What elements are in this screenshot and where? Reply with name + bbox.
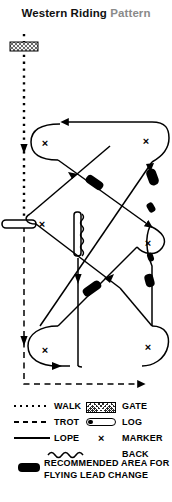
marker-6: ×: [145, 341, 151, 353]
legend-item-trot: TROT: [12, 414, 90, 430]
legend-label-log: LOG: [122, 414, 142, 430]
legend-label-gate: GATE: [122, 398, 147, 414]
legend-gaits: WALK TROT LOPE: [12, 398, 90, 446]
legend-label-trot: TROT: [54, 414, 79, 430]
legend-item-gate: GATE: [86, 398, 170, 414]
legend-item-log: LOG: [86, 414, 170, 430]
lead-change-bar-icon: [0, 458, 44, 484]
legend-item-lope: LOPE: [12, 430, 90, 446]
marker-3: ×: [39, 218, 45, 230]
gate-icon: [86, 398, 122, 414]
western-riding-pattern-page: Western Riding Pattern: [0, 0, 172, 502]
page-title-sub: Pattern: [110, 7, 150, 19]
legend-item-walk: WALK: [12, 398, 90, 414]
marker-2: ×: [143, 135, 149, 147]
marker-icon: ×: [86, 430, 122, 446]
lead-change-bar-5: [145, 201, 156, 213]
pattern-diagram-svg: × × × × × ×: [0, 26, 172, 392]
legend-label-walk: WALK: [54, 398, 81, 414]
gate-obstacle: [10, 42, 38, 51]
marker-5: ×: [42, 344, 48, 356]
back-wavy-line: [81, 214, 84, 256]
walk-direction-arrow: [20, 144, 27, 154]
page-title-main: Western Riding: [21, 7, 107, 19]
walk-path: [20, 34, 27, 226]
pattern-diagram: × × × × × ×: [0, 26, 172, 392]
legend-label-marker: MARKER: [122, 430, 163, 446]
legend-item-recommended-area: RECOMMENDED AREA FOR FLYING LEAD CHANGE: [0, 458, 172, 484]
marker-1: ×: [42, 137, 48, 149]
legend-objects: GATE LOG × MARKER: [86, 398, 170, 462]
log-icon: [86, 414, 122, 430]
lead-change-bar-1: [84, 173, 105, 191]
trot-line-icon: [12, 414, 54, 430]
legend: WALK TROT LOPE GATE LO: [0, 396, 172, 502]
recommended-line-1: RECOMMENDED AREA FOR: [44, 458, 169, 468]
marker-glyph: ×: [94, 432, 108, 444]
lope-line-icon: [12, 430, 54, 446]
legend-columns: WALK TROT LOPE GATE LO: [0, 396, 172, 462]
legend-item-marker: × MARKER: [86, 430, 170, 446]
lead-change-bar-4: [143, 273, 155, 288]
marker-4: ×: [145, 237, 151, 249]
trot-direction-arrow: [20, 336, 27, 346]
walk-line-icon: [12, 398, 54, 414]
legend-label-lope: LOPE: [54, 430, 79, 446]
recommended-line-2: FLYING LEAD CHANGE: [44, 470, 148, 480]
page-title: Western Riding Pattern: [0, 6, 172, 20]
lead-change-bar-3: [81, 279, 103, 298]
